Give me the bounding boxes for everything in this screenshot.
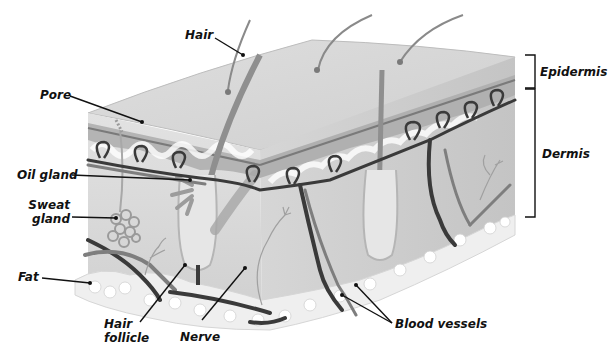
label-sweat-gland-line2: gland (26, 212, 70, 226)
hair-follicle-front (178, 175, 216, 270)
label-pore: Pore (40, 88, 71, 102)
label-fat: Fat (18, 270, 39, 284)
label-hair-follicle-line2: follicle (104, 331, 149, 345)
label-oil-gland: Oil gland (17, 168, 78, 182)
label-hair-follicle-line1: Hair (104, 317, 149, 331)
label-dermis: Dermis (542, 147, 590, 161)
label-nerve: Nerve (180, 330, 220, 344)
skin-diagram (0, 0, 612, 355)
hair-follicle-right (363, 170, 397, 260)
label-hair-follicle: Hair follicle (104, 317, 149, 345)
label-hair: Hair (185, 28, 213, 42)
label-epidermis: Epidermis (540, 65, 607, 79)
label-sweat-gland-line1: Sweat (26, 198, 70, 212)
label-sweat-gland: Sweat gland (26, 198, 70, 226)
label-blood-vessels: Blood vessels (395, 317, 487, 331)
